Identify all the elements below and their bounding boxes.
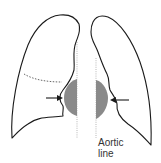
fissure-line (24, 74, 62, 82)
lung-diagram: Aortic line (0, 0, 161, 163)
arrow-left-hilum (110, 97, 129, 103)
aortic-line-label-2: line (98, 148, 114, 159)
aortic-line-label: Aortic (98, 137, 124, 148)
mass-left (96, 80, 108, 119)
right-lung-outline (12, 15, 80, 138)
mass-right (64, 79, 77, 116)
left-lung-outline (91, 16, 151, 145)
